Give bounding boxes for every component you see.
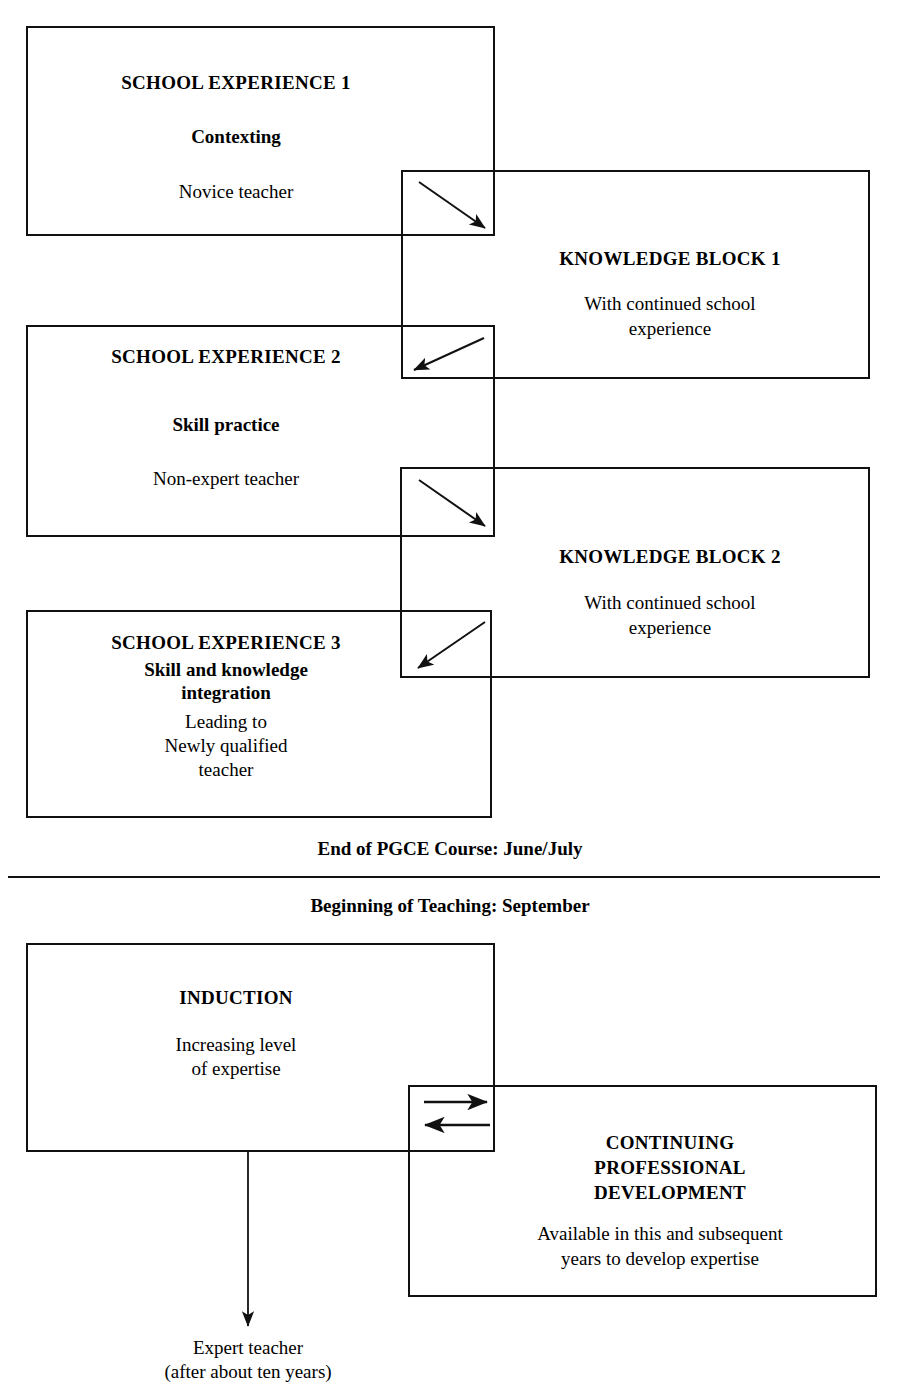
school-experience-3-detail-line-3: teacher xyxy=(26,759,426,781)
outcome-expert-teacher-line-1: Expert teacher xyxy=(68,1337,428,1360)
cpd-detail-line-2: years to develop expertise xyxy=(440,1248,880,1270)
cpd-title-line-1: CONTINUING xyxy=(460,1132,880,1154)
cpd-title-line-2: PROFESSIONAL xyxy=(460,1157,880,1179)
school-experience-3-title: SCHOOL EXPERIENCE 3 xyxy=(26,632,426,654)
school-experience-1-subtitle: Contexting xyxy=(26,126,446,148)
outcome-expert-teacher-line-2: (after about ten years) xyxy=(68,1361,428,1384)
school-experience-2-detail: Non-expert teacher xyxy=(26,468,426,490)
induction-detail-line-1: Increasing level xyxy=(26,1034,446,1056)
knowledge-block-2-detail-line-2: experience xyxy=(460,617,880,639)
knowledge-block-1-title: KNOWLEDGE BLOCK 1 xyxy=(460,248,880,270)
cpd-detail-line-1: Available in this and subsequent xyxy=(440,1223,880,1245)
school-experience-1-title: SCHOOL EXPERIENCE 1 xyxy=(26,72,446,94)
diagram-canvas: SCHOOL EXPERIENCE 1 Contexting Novice te… xyxy=(0,0,900,1387)
school-experience-3-subtitle-line-2: integration xyxy=(26,682,426,704)
school-experience-1-detail: Novice teacher xyxy=(26,181,446,203)
school-experience-2-title: SCHOOL EXPERIENCE 2 xyxy=(26,346,426,368)
school-experience-3-detail-line-1: Leading to xyxy=(26,711,426,733)
knowledge-block-1-detail-line-1: With continued school xyxy=(460,293,880,315)
school-experience-3-subtitle-line-1: Skill and knowledge xyxy=(26,659,426,681)
milestone-beginning-of-teaching: Beginning of Teaching: September xyxy=(0,895,900,917)
cpd-title-line-3: DEVELOPMENT xyxy=(460,1182,880,1204)
school-experience-2-subtitle: Skill practice xyxy=(26,414,426,436)
section-divider-line xyxy=(8,876,880,878)
knowledge-block-2-detail-line-1: With continued school xyxy=(460,592,880,614)
milestone-end-of-pgce-course: End of PGCE Course: June/July xyxy=(0,838,900,860)
induction-detail-line-2: of expertise xyxy=(26,1058,446,1080)
induction-title: INDUCTION xyxy=(26,987,446,1009)
knowledge-block-2-title: KNOWLEDGE BLOCK 2 xyxy=(460,546,880,568)
school-experience-3-detail-line-2: Newly qualified xyxy=(26,735,426,757)
knowledge-block-1-detail-line-2: experience xyxy=(460,318,880,340)
